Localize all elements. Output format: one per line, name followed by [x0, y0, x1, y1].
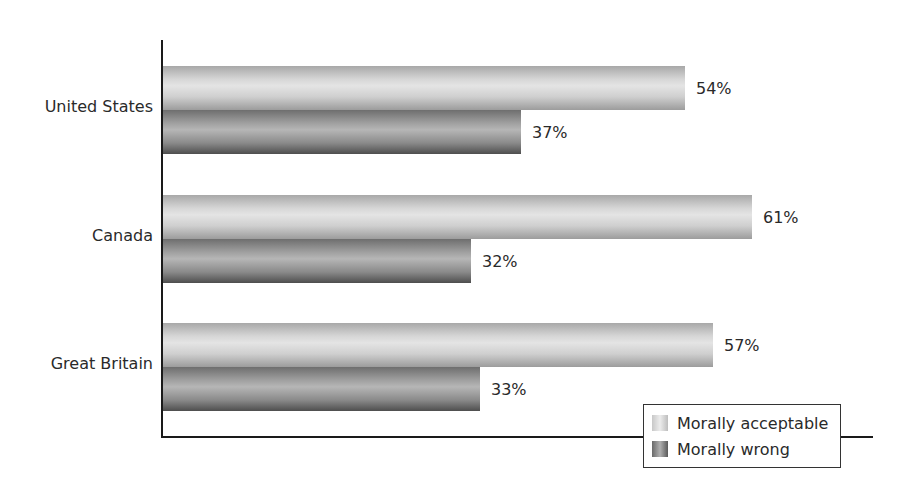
legend-swatch-icon [652, 441, 668, 457]
value-label: 61% [763, 208, 799, 228]
legend-label: Morally wrong [677, 440, 790, 459]
value-label: 32% [482, 252, 518, 272]
value-label: 33% [491, 380, 527, 400]
bar-us-morally-acceptable [163, 66, 685, 110]
legend-item-morally-wrong: Morally wrong [652, 437, 790, 461]
category-label-united-states: United States [45, 97, 153, 117]
bar-canada-morally-wrong [163, 239, 471, 283]
category-label-great-britain: Great Britain [51, 354, 153, 374]
category-label-canada: Canada [92, 226, 153, 246]
value-label: 37% [532, 123, 568, 143]
bar-us-morally-wrong [163, 110, 521, 154]
legend-swatch-icon [652, 415, 668, 431]
legend: Morally acceptable Morally wrong [643, 404, 841, 468]
legend-item-morally-acceptable: Morally acceptable [652, 411, 828, 435]
bar-gb-morally-acceptable [163, 323, 713, 367]
value-label: 57% [724, 336, 760, 356]
bar-canada-morally-acceptable [163, 195, 752, 239]
legend-label: Morally acceptable [677, 414, 828, 433]
value-label: 54% [696, 79, 732, 99]
bar-gb-morally-wrong [163, 367, 480, 411]
